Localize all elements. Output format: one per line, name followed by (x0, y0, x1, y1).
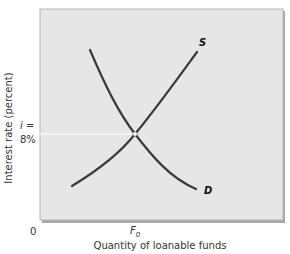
equilibrium-point (133, 132, 138, 137)
x-axis-label: Quantity of loanable funds (0, 240, 290, 251)
y-axis-label: Interest rate (percent) (3, 72, 14, 183)
loanable-funds-chart (0, 0, 290, 254)
supply-curve-label: S (199, 37, 206, 48)
origin-label: 0 (30, 226, 36, 237)
f0-subscript: 0 (136, 231, 140, 239)
plot-area (40, 9, 283, 220)
interest-rate-tick-line2: 8% (20, 134, 36, 145)
demand-curve-label: D (204, 185, 212, 196)
interest-rate-tick-line1: i = (20, 120, 34, 131)
f0-tick-label: F0 (130, 225, 140, 239)
